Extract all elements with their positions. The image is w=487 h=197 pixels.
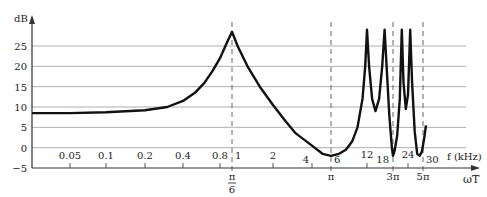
response-curve [32,30,426,156]
y-axis-label: dB [14,13,28,24]
y-tick-label: 0 [21,143,27,154]
omega-tick-denominator: 6 [229,184,235,195]
y-tick-label: 20 [14,61,27,72]
y-tick-label: 5 [21,122,27,133]
frequency-tick-label: 30 [426,154,439,165]
frequency-tick-label: 0.05 [59,150,81,161]
frequency-tick-label: 0.4 [175,150,191,161]
frequency-tick-label: 0.1 [98,150,114,161]
frequency-tick-labels: 0.050.10.20.40.8124612182430 [59,149,439,168]
y-tick-label: 10 [14,102,27,113]
frequency-tick-label: 2 [270,150,276,161]
y-tick-label: −5 [12,163,27,174]
frequency-response-chart: dB f (kHz) ωT 2520151050−5 0.050.10.20.4… [0,0,487,197]
omega-tick-label: 5π [417,171,430,182]
x-axis-label-frequency: f (kHz) [447,151,482,162]
omega-tick-label: π [328,171,335,182]
omega-tick-labels: π6π3π5π [228,171,430,195]
y-tick-labels: 2520151050−5 [12,41,27,174]
frequency-tick-label: 0.8 [212,150,228,161]
frequency-tick-label: 18 [376,154,389,165]
frequency-tick-label: 4 [303,154,309,165]
frequency-tick-label: 24 [402,149,415,160]
x-axis-label-omega: ωT [463,173,480,186]
y-tick-label: 25 [14,41,27,52]
frequency-tick-label: 1 [235,150,241,161]
frequency-tick-label: 12 [361,149,374,160]
x-axis-arrow [471,165,480,171]
omega-tick-label: π [229,171,236,182]
y-axis-arrow [29,15,35,24]
omega-tick-label: 3π [387,171,400,182]
y-tick-label: 15 [14,82,27,93]
frequency-tick-label: 0.2 [137,150,153,161]
